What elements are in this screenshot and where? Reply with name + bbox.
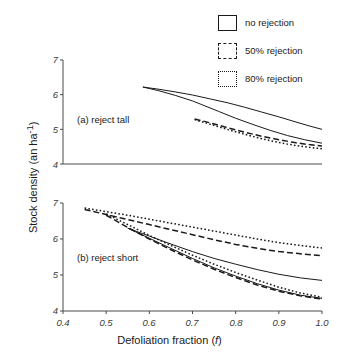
dashed-box-swatch-icon: [218, 43, 237, 59]
yaxis-title: Stock density (an ha-1): [25, 67, 40, 287]
series-a-50-rejection: [195, 119, 322, 146]
series-b-no-rejection: [128, 228, 322, 280]
panel-a-ytick-4: 4: [44, 159, 58, 170]
series-b-no-rejection-lower-branch-: [128, 228, 322, 298]
series-b-80-rejection: [85, 208, 322, 248]
yaxis-title-text: Stock density (an ha: [27, 133, 39, 233]
legend-label-80-rejection: 80% rejection: [245, 74, 303, 84]
yaxis-title-exponent: -1: [25, 125, 35, 133]
xtick-0.8: 0.8: [223, 317, 249, 328]
legend-item-no-rejection: no rejection: [218, 12, 336, 34]
series-b-80-rejection-lower-branch-: [106, 214, 322, 298]
series-b-50-rejection-lower-branch-: [106, 215, 322, 299]
panel-a-series-layer: [143, 87, 322, 149]
solid-box-swatch-icon: [218, 15, 237, 31]
xaxis-title: Defoliation fraction (f): [0, 334, 339, 346]
panel-a-label: (a) reject tall: [77, 114, 129, 125]
legend-label-50-rejection: 50% rejection: [245, 46, 303, 56]
panel-b-ytick-4: 4: [44, 305, 58, 316]
legend: no rejection 50% rejection 80% rejection: [218, 12, 336, 96]
panel-b-ytick-7: 7: [44, 197, 58, 208]
figure-root: no rejection 50% rejection 80% rejection…: [0, 0, 339, 356]
panel-a-ytick-6: 6: [44, 89, 58, 100]
series-a-80-rejection: [195, 120, 322, 149]
axes-layer: [60, 60, 322, 314]
legend-item-50-rejection: 50% rejection: [218, 40, 336, 62]
xtick-0.5: 0.5: [93, 317, 119, 328]
panel-b-label: (b) reject short: [77, 252, 138, 263]
xtick-0.7: 0.7: [179, 317, 205, 328]
series-b-50-rejection: [85, 209, 322, 255]
panel-a-ytick-5: 5: [44, 124, 58, 135]
panel-a-ytick-7: 7: [44, 54, 58, 65]
panel-b-ytick-6: 6: [44, 233, 58, 244]
xtick-0.6: 0.6: [136, 317, 162, 328]
xaxis-title-text: Defoliation fraction (: [117, 334, 215, 346]
legend-label-no-rejection: no rejection: [245, 18, 294, 28]
legend-item-80-rejection: 80% rejection: [218, 68, 336, 90]
xtick-1.0: 1.0: [309, 317, 335, 328]
yaxis-title-close: ): [27, 122, 39, 126]
xaxis-title-close: ): [218, 334, 222, 346]
panel-b-ytick-5: 5: [44, 269, 58, 280]
xtick-0.9: 0.9: [266, 317, 292, 328]
dotted-box-swatch-icon: [218, 71, 237, 87]
xtick-0.4: 0.4: [50, 317, 76, 328]
